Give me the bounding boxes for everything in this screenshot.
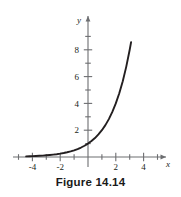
y-tick-label-2: 2: [75, 125, 80, 135]
figure-caption: Figure 14.14: [0, 175, 181, 189]
x-tick-label-neg2: -2: [56, 162, 64, 172]
plot-area: -4 -2 2 4 2 4 6 8 y x: [0, 0, 181, 172]
y-tick-label-4: 4: [75, 99, 80, 109]
y-axis-label: y: [76, 15, 81, 25]
y-tick-label-6: 6: [75, 72, 80, 82]
exponential-curve-chart: -4 -2 2 4 2 4 6 8 y x: [0, 0, 181, 172]
x-axis-label: x: [165, 159, 170, 169]
figure-container: -4 -2 2 4 2 4 6 8 y x Figure 14.14: [0, 0, 181, 197]
x-tick-label-neg4: -4: [29, 162, 37, 172]
arrow-up-icon: [86, 16, 91, 22]
x-tick-label-4: 4: [141, 162, 146, 172]
x-tick-label-2: 2: [114, 162, 119, 172]
y-tick-label-8: 8: [75, 45, 80, 55]
